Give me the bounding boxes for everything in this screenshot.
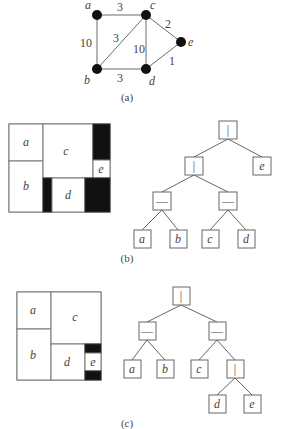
graph-a: a b c d e 3 10 3 10 2 1 3 (a) (80, 0, 194, 104)
tree-node-label: — (155, 194, 169, 208)
graph-node-b (92, 64, 102, 74)
edge-c-e (146, 15, 181, 42)
room-label-d: d (65, 188, 72, 202)
room-label-c: c (72, 310, 78, 324)
caption-b: (b) (121, 252, 134, 265)
room-label-c: c (63, 144, 69, 158)
tree-node-label: d (243, 232, 250, 246)
caption-c: (c) (121, 417, 134, 429)
tree-node-label: e (249, 397, 255, 411)
room-label-b: b (23, 179, 29, 193)
room-label-e: e (98, 162, 104, 176)
node-label-b: b (84, 73, 90, 87)
dead-space (43, 178, 52, 212)
edge-d-e (146, 42, 181, 69)
weight-b-c: 3 (113, 31, 119, 45)
tree-node-label: | (180, 289, 182, 303)
weight-c-d: 10 (133, 42, 145, 56)
tree-node-label: a (129, 362, 135, 376)
tree-node-label: b (162, 362, 168, 376)
tree-node-label: | (227, 123, 229, 137)
slicing-tree-b: | | e — — a b c d (134, 121, 271, 248)
room-label-d: d (64, 355, 71, 369)
tree-node-label: a (139, 232, 145, 246)
node-label-d: d (149, 74, 156, 88)
node-label-c: c (150, 0, 156, 12)
weight-a-c: 3 (117, 0, 123, 14)
room-label-a: a (30, 303, 36, 317)
caption-a: (a) (121, 91, 134, 104)
weight-c-e: 2 (165, 17, 171, 31)
tree-node-label: — (210, 324, 224, 338)
dead-space (85, 178, 110, 212)
tree-node-label: — (140, 324, 154, 338)
floorplan-c: a b c d e (17, 292, 101, 380)
floorplan-b: a b c d e (9, 124, 110, 212)
slicing-tree-c: | — — a b c | d e (124, 287, 261, 413)
dead-space (85, 344, 101, 353)
tree-node-label: e (259, 159, 265, 173)
node-label-a: a (85, 0, 91, 12)
graph-node-a (92, 10, 102, 20)
room-label-a: a (23, 135, 29, 149)
weight-b-d: 3 (117, 71, 123, 85)
node-label-e: e (188, 35, 194, 49)
room-label-e: e (90, 355, 96, 369)
tree-node-label: d (214, 397, 221, 411)
tree-node-label: c (196, 362, 202, 376)
graph-node-e (176, 37, 186, 47)
tree-node-label: | (193, 159, 195, 173)
tree-node-label: | (234, 362, 236, 376)
dead-space (85, 371, 101, 380)
room-label-b: b (30, 348, 36, 362)
weight-a-b: 10 (80, 36, 92, 50)
graph-node-d (141, 64, 151, 74)
dead-space (93, 124, 110, 160)
tree-node-label: b (175, 232, 181, 246)
tree-node-label: — (221, 194, 235, 208)
tree-node-label: c (207, 232, 213, 246)
weight-d-e: 1 (169, 54, 175, 68)
